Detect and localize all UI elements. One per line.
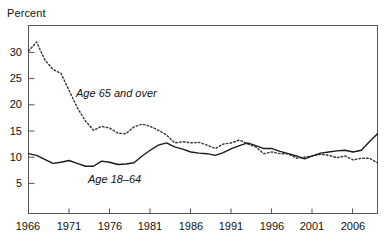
x-tick-label: 1996 [252,220,292,232]
y-tick-label: 20 [0,98,22,110]
x-tick-label: 1976 [90,220,130,232]
y-axis-ticks [29,52,35,183]
x-tick-label: 2001 [292,220,332,232]
y-tick-label: 10 [0,151,22,163]
x-tick-label: 1986 [171,220,211,232]
y-tick-label: 5 [0,177,22,189]
y-tick-label: 30 [0,46,22,58]
series-line-age-18-64 [29,134,378,166]
series-label-age-65-and-over: Age 65 and over [76,87,157,99]
series-line-age-65-and-over [29,42,378,163]
x-tick-label: 1971 [49,220,89,232]
plot-area [0,0,387,241]
x-tick-label: 1991 [211,220,251,232]
series-label-age-18-64: Age 18–64 [88,173,141,185]
x-axis-ticks [29,209,353,214]
x-tick-label: 1966 [8,220,48,232]
chart-container: Percent 30 25 20 15 [0,0,387,241]
plot-frame [29,26,378,214]
x-tick-label: 1981 [130,220,170,232]
y-tick-label: 15 [0,125,22,137]
y-tick-label: 25 [0,72,22,84]
x-tick-label: 2006 [333,220,373,232]
